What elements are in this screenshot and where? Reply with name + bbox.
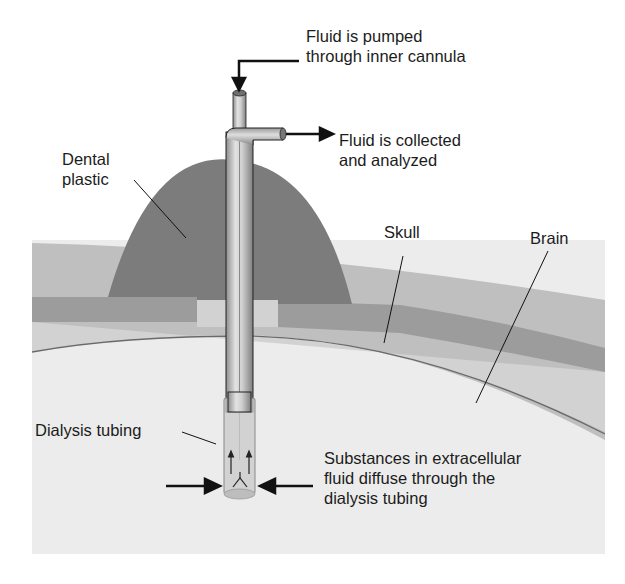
cannula-end — [228, 392, 251, 412]
dental-label: Dental plastic — [62, 149, 110, 189]
skull-label: Skull — [384, 222, 420, 242]
pump-label-line1: Fluid is pumped — [306, 26, 466, 46]
diffuse-label-line2: fluid diffuse through the — [324, 468, 521, 488]
pump-label: Fluid is pumped through inner cannula — [306, 26, 466, 66]
diffuse-label: Substances in extracellular fluid diffus… — [324, 448, 521, 508]
collect-label-line2: and analyzed — [339, 150, 461, 170]
diffuse-label-line3: dialysis tubing — [324, 488, 521, 508]
collect-arrow-icon — [286, 128, 333, 140]
tubing-label: Dialysis tubing — [35, 420, 141, 440]
collect-label: Fluid is collected and analyzed — [339, 130, 461, 170]
diffuse-label-line1: Substances in extracellular — [324, 448, 521, 468]
dental-label-line1: Dental — [62, 149, 110, 169]
pump-arrow-icon — [233, 61, 299, 90]
skull-left — [32, 297, 197, 322]
pump-label-line2: through inner cannula — [306, 46, 466, 66]
dental-label-line2: plastic — [62, 169, 110, 189]
outflow-opening — [280, 128, 286, 140]
microdialysis-diagram — [0, 0, 625, 584]
dialysis-tubing-tip — [224, 489, 255, 499]
collect-label-line1: Fluid is collected — [339, 130, 461, 150]
brain-label: Brain — [530, 228, 569, 248]
